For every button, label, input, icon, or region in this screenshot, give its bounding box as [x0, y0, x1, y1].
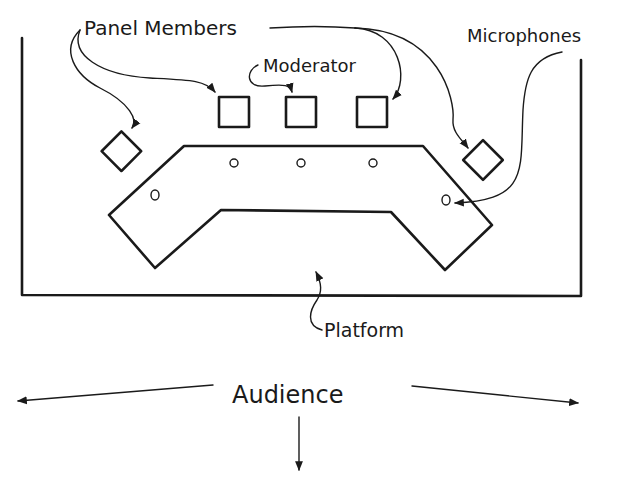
audience-arrow-right	[412, 386, 578, 403]
label-microphones: Microphones	[467, 25, 581, 46]
microphone-icon	[297, 159, 305, 167]
chair-moderator	[286, 97, 316, 127]
panel-members-arrow-left	[71, 30, 134, 128]
microphones-arrow	[455, 52, 562, 203]
panel-members-connector	[270, 27, 355, 29]
microphone-icon	[151, 190, 159, 200]
platform-arrow	[311, 272, 323, 330]
panel-layout-diagram: Panel Members Moderator Microphones Plat…	[0, 0, 625, 488]
chair-panel-right	[463, 140, 503, 180]
label-platform: Platform	[324, 319, 404, 341]
audience-arrow-left	[18, 385, 213, 401]
table	[109, 146, 492, 270]
label-moderator: Moderator	[263, 55, 357, 76]
label-audience: Audience	[232, 381, 343, 409]
chair-panel-right-center	[357, 97, 387, 127]
chair-panel-left-center	[219, 97, 249, 127]
chair-panel-left	[102, 131, 142, 171]
label-panel-members: Panel Members	[84, 16, 237, 40]
panel-members-arrow-right-center	[355, 28, 401, 99]
panel-members-arrow-right	[355, 28, 468, 148]
microphone-icon	[442, 195, 450, 205]
microphone-icon	[230, 159, 238, 167]
microphone-icon	[369, 159, 377, 167]
